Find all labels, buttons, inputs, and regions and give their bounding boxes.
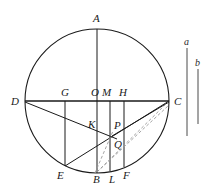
reference-label-a: a (184, 37, 189, 47)
point-label-L: L (109, 174, 115, 185)
point-label-K: K (88, 119, 95, 130)
point-label-D: D (11, 96, 19, 107)
dashed-line-B-to-C-upper (97, 102, 168, 172)
point-label-M: M (102, 87, 111, 98)
geometry-figure: A D C G O M H K P Q E B L F a b (0, 0, 211, 193)
point-label-B: B (93, 174, 100, 185)
point-label-H: H (119, 87, 127, 98)
line-D-to-Q (25, 102, 117, 139)
point-label-F: F (123, 170, 130, 181)
reference-label-b: b (195, 58, 200, 68)
point-label-O: O (91, 87, 99, 98)
point-label-G: G (61, 87, 69, 98)
point-label-C: C (174, 96, 181, 107)
point-label-A: A (93, 13, 100, 24)
point-label-Q: Q (114, 139, 122, 150)
point-label-E: E (57, 170, 64, 181)
point-label-P: P (114, 120, 121, 131)
